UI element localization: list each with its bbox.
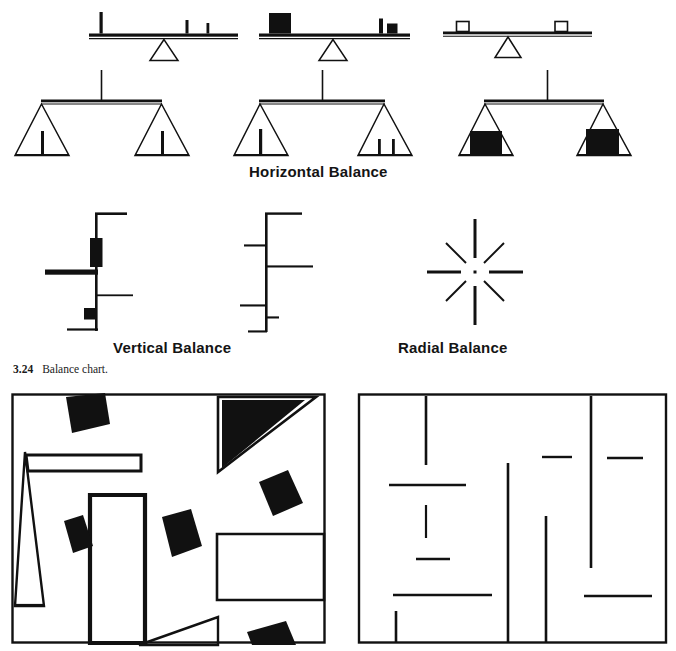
figure-caption: 3.24Balance chart. — [13, 363, 108, 375]
composition-panel-left — [13, 393, 325, 645]
balance-chart-figure: Horizontal Balance Vertical Balance Radi… — [0, 0, 676, 651]
seesaw-outlined-blocks — [443, 22, 592, 58]
figure-artwork — [0, 0, 676, 651]
vertical-spine-right — [240, 212, 313, 332]
radial-balance-label: Radial Balance — [398, 339, 508, 356]
seesaw-blocks — [259, 13, 410, 61]
horizontal-balance-label: Horizontal Balance — [249, 163, 388, 180]
scale-one-vs-two — [234, 70, 412, 156]
figure-caption-text: Balance chart. — [42, 363, 108, 375]
scale-solid-blocks — [459, 70, 631, 156]
radial-starburst — [427, 219, 523, 325]
vertical-spine-left — [45, 212, 133, 331]
vertical-balance-label: Vertical Balance — [113, 339, 231, 356]
composition-panel-right — [359, 395, 666, 643]
seesaw-informal-bars — [89, 12, 238, 61]
figure-number: 3.24 — [13, 363, 33, 375]
scale-even-bars — [15, 70, 189, 156]
